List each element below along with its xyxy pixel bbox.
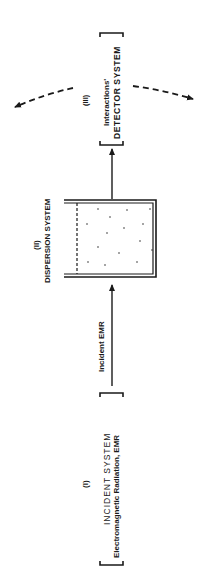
incident-emr-label: Incident EMR (98, 321, 106, 372)
dispersion-system-numeral: (II) (33, 240, 41, 250)
dispersion-particles (86, 208, 153, 266)
incident-system-subtitle: Electromagnetic Radiation, EMR (113, 435, 121, 558)
detector-system-numeral: (III) (82, 95, 90, 106)
dispersion-system-title: DISPERSION SYSTEM (44, 199, 52, 283)
dispersion-container (64, 200, 156, 277)
detector-sweep-right-arrow (133, 86, 193, 99)
incident-system-title: INCIDENT SYSTEM (103, 433, 112, 525)
detector-system-title: DETECTOR SYSTEM (113, 46, 122, 139)
incident-system-numeral: (I) (82, 480, 90, 488)
detector-system-subtitle: Interactions' (103, 79, 111, 126)
detector-sweep-left-arrow (15, 88, 73, 107)
